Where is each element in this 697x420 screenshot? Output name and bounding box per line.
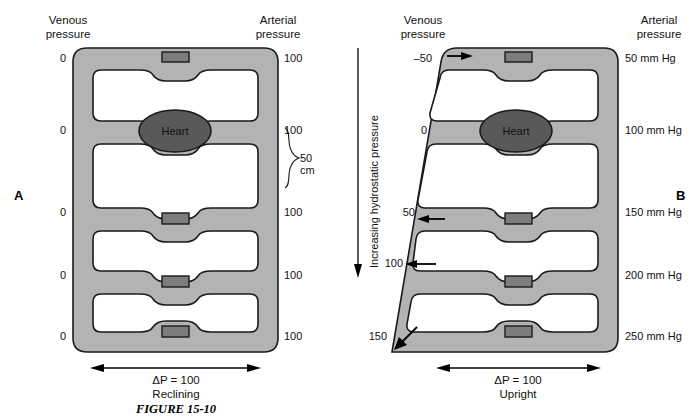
panel-a-deltap-arrow [90,364,261,372]
panel-a-venous-value-0: 0 [38,52,66,65]
panel-b-arterial-value-0: 50 mm Hg [625,52,695,65]
panel-b-vessel-loop: Heart [392,48,618,352]
panel-b-hydrostatic-label: Increasing hydrostatic pressure [368,115,380,268]
figure-caption: FIGURE 15-10 [115,402,237,417]
panel-b-chamber-2 [418,144,598,219]
panel-a-vessel-loop: Heart [73,48,278,352]
panel-a-venous-header: Venous pressure [28,14,108,41]
panel-b-heart-label: Heart [503,125,530,137]
circulatory-loop-diagram: Heart Heart [0,0,697,420]
panel-a-letter: A [14,188,23,203]
panel-b-venous-value-0: –50 [400,52,432,65]
panel-b-capillary-1 [505,52,532,62]
panel-b-deltap-arrow [436,364,601,372]
panel-a-deltap-label: ΔP = 100 [115,374,237,386]
panel-a-scale-label: 50 cm [300,152,326,176]
panel-a-arterial-header: Arterial pressure [238,14,318,41]
panel-b-capillary-2 [505,213,532,224]
panel-a-arterial-value-3: 100 [284,269,324,282]
panel-a-arterial-value-1: 100 [284,124,324,137]
panel-b-hydrostatic-axis-arrow [354,48,362,278]
panel-b-arterial-value-2: 150 mm Hg [625,206,695,219]
panel-a-capillary-2 [162,213,189,224]
panel-b-letter: B [676,188,685,203]
panel-b-capillary-4 [505,326,532,337]
figure-15-10: Heart Heart [0,0,697,420]
panel-b-arterial-header: Arterial pressure [619,14,697,41]
panel-b-arterial-value-4: 250 mm Hg [625,330,695,343]
panel-a-venous-value-2: 0 [38,206,66,219]
panel-a-capillary-4 [162,326,189,337]
panel-b-venous-value-3: 100 [371,257,403,270]
panel-a-capillary-1 [162,52,189,62]
panel-b-arterial-value-1: 100 mm Hg [625,124,695,137]
panel-a-chamber-2 [93,144,258,219]
panel-a-venous-value-1: 0 [38,124,66,137]
panel-a-heart-label: Heart [162,125,189,137]
panel-a-posture-label: Reclining [115,388,237,400]
panel-a-capillary-3 [162,276,189,287]
panel-b-venous-header: Venous pressure [383,14,463,41]
panel-b-capillary-3 [505,276,532,287]
panel-b-deltap-label: ΔP = 100 [457,374,579,386]
panel-a-arterial-value-2: 100 [284,206,324,219]
panel-a-arterial-value-0: 100 [284,52,324,65]
panel-a-scale-brace [285,128,299,188]
panel-b-venous-value-4: 150 [355,330,387,343]
panel-b-venous-value-2: 50 [383,206,415,219]
panel-b-arterial-value-3: 200 mm Hg [625,269,695,282]
panel-b-posture-label: Upright [457,388,579,400]
panel-a-venous-value-3: 0 [38,269,66,282]
panel-a-venous-value-4: 0 [38,330,66,343]
panel-b-venous-value-1: 0 [395,124,427,137]
panel-a-arterial-value-4: 100 [284,330,324,343]
